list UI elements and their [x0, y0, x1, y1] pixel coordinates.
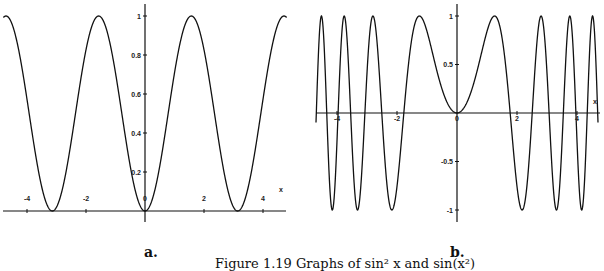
y-tick-label: 0.6: [131, 91, 141, 98]
y-tick-label: 1: [137, 13, 141, 20]
x-axis-label: x: [593, 98, 597, 105]
y-tick-label: 0.2: [131, 169, 141, 176]
x-tick-label: 0: [143, 195, 147, 202]
y-tick-label: 0.4: [131, 130, 141, 137]
x-axis-label: x: [279, 186, 283, 193]
panel-a-label: a.: [144, 244, 158, 260]
y-tick-label: -1: [447, 207, 453, 214]
x-tick-label: -2: [394, 115, 400, 122]
x-tick-label: 4: [261, 195, 265, 202]
y-tick-label: -0.5: [441, 158, 453, 165]
x-tick-label: 4: [575, 115, 579, 122]
chart-a: -4-20240.20.40.60.81x: [3, 4, 287, 222]
x-tick-label: 0: [455, 115, 459, 122]
y-tick-label: 1: [449, 13, 453, 20]
y-tick-label: 0.8: [131, 52, 141, 59]
x-tick-label: -4: [24, 195, 30, 202]
y-tick-label: 0.5: [443, 61, 453, 68]
x-tick-label: -4: [334, 115, 340, 122]
figure-caption: Figure 1.19 Graphs of sin² x and sin(x²): [215, 256, 475, 271]
chart-b: -4-2024-1-0.50.51x: [316, 4, 600, 222]
x-tick-label: 2: [202, 195, 206, 202]
x-tick-label: -2: [83, 195, 89, 202]
x-tick-label: 2: [515, 115, 519, 122]
